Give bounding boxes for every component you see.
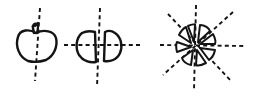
halved-apple-panel <box>64 8 143 87</box>
left-half <box>77 31 96 62</box>
wedge <box>176 42 191 52</box>
exploded-apple-panel <box>160 5 246 91</box>
whole-apple-panel <box>17 8 56 81</box>
halves-axis-vertical <box>97 8 100 87</box>
apple-axis-vertical <box>35 8 40 81</box>
right-half <box>104 31 121 61</box>
diagram-canvas <box>0 0 259 98</box>
